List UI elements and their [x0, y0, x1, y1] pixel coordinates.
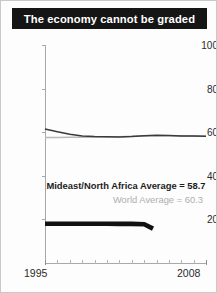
- plot-area: 100 80 60 40 20 1995 2008: [1, 1, 217, 293]
- series-mideast-north-africa: [45, 129, 206, 137]
- annotation-mideast-average: Mideast/North Africa Average = 58.7: [45, 180, 207, 191]
- series-lower-band: [45, 224, 153, 229]
- chart-figure: The economy cannot be graded 100 80 60 4…: [0, 0, 217, 293]
- series-layer: [1, 1, 217, 293]
- annotation-world-average: World Average = 60.3: [45, 194, 207, 205]
